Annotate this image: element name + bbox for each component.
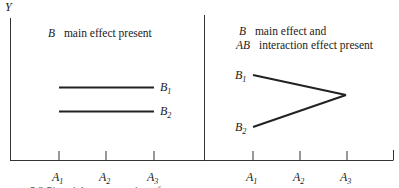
series-label-b2: B2 xyxy=(235,120,246,136)
y-axis-label: Y xyxy=(5,0,13,14)
figure-caption: 5.2 Pictorial representation of xyxy=(30,184,161,188)
panel-right: B main effect and AB interaction effect … xyxy=(235,25,374,186)
panel-left: B main effect present A1 A2 A3 B1 B2 xyxy=(48,27,171,186)
panel-right-title-line2: AB interaction effect present xyxy=(235,39,374,52)
interaction-diagram: Y B main effect present A1 A2 A3 B1 B2 B… xyxy=(0,0,399,188)
series-label-b1: B1 xyxy=(160,80,171,96)
tick-label-a3: A3 xyxy=(339,170,351,186)
title-text: main effect present xyxy=(64,27,153,40)
panel-right-title-line1: B main effect and xyxy=(239,25,326,37)
panel-left-title: B main effect present xyxy=(48,27,153,40)
title-factor: B xyxy=(48,27,55,39)
tick-label-a2: A2 xyxy=(292,170,304,186)
series-line-b1 xyxy=(253,75,346,95)
series-line-b2 xyxy=(253,95,346,127)
tick-label-a1: A1 xyxy=(245,170,257,186)
series-label-b2: B2 xyxy=(160,104,171,120)
series-label-b1: B1 xyxy=(235,68,246,84)
